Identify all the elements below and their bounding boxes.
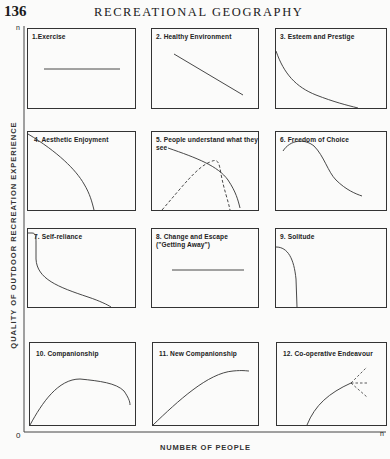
panel-solitude: 9. Solitude (275, 228, 387, 308)
y-axis-max-label: n (16, 24, 20, 31)
panel-aesthetic-enjoyment: 4. Aesthetic Enjoyment (27, 131, 136, 211)
curve-rise-decline (276, 132, 386, 210)
curve-rising (153, 343, 258, 425)
curve-linear-decline (152, 29, 258, 108)
panel-esteem-prestige: 3. Esteem and Prestige (275, 28, 387, 109)
curve-peak (30, 343, 135, 425)
curve-plateau-drop (28, 229, 135, 307)
panel-new-companionship: 11. New Companionship (152, 342, 259, 426)
curve-concave-decline (276, 29, 386, 108)
curve-convex-decline (28, 132, 135, 210)
curve-flat (152, 229, 258, 307)
y-axis-title: QUALITY OF OUTDOOR RECREATION EXPERIENCE (9, 121, 18, 348)
origin-label: 0 (16, 431, 20, 440)
panel-self-reliance: 7. Self-reliance (27, 228, 136, 308)
panel-companionship: 10. Companionship (29, 342, 136, 426)
curve-rapid-decline (276, 229, 386, 307)
x-axis-max-label: n (380, 430, 384, 437)
panel-cooperative-endeavour: 12. Co-operative Endeavour (276, 342, 387, 426)
curve-flat (28, 29, 135, 108)
curve-understand (152, 132, 258, 210)
curve-branching (277, 343, 386, 425)
panel-people-understand: 5. People understand what they see (151, 131, 259, 211)
panel-healthy-environment: 2. Healthy Environment (151, 28, 259, 109)
panel-freedom-of-choice: 6. Freedom of Choice (275, 131, 387, 211)
panel-change-escape: 8. Change and Escape ("Getting Away") (151, 228, 259, 308)
panel-exercise: 1.Exercise (27, 28, 136, 109)
x-axis-title: NUMBER OF PEOPLE (160, 443, 251, 452)
